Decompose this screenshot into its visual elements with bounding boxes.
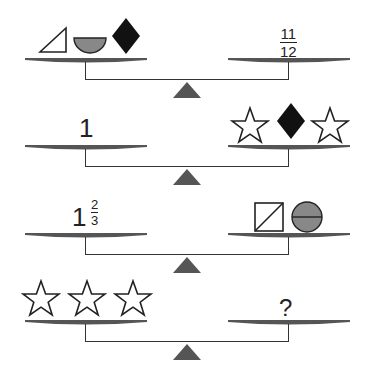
right-pan — [228, 319, 350, 325]
right-pan — [228, 232, 350, 238]
left-stem — [85, 62, 86, 79]
denominator: 12 — [280, 44, 297, 59]
beam — [85, 166, 289, 167]
left-stem — [85, 149, 86, 166]
unknown-question-mark: ? — [279, 296, 292, 320]
fraction-two-thirds: 2 3 — [91, 198, 98, 227]
left-pan — [25, 144, 147, 150]
left-stem — [85, 237, 86, 254]
right-stem — [288, 62, 289, 79]
beam — [85, 341, 289, 342]
left-stem — [85, 324, 86, 341]
beam — [85, 79, 289, 80]
numerator: 11 — [281, 26, 297, 41]
triangle-icon — [38, 26, 68, 58]
left-pan — [25, 319, 147, 325]
scale-4: ? — [0, 275, 370, 370]
star-icon — [67, 279, 107, 321]
fulcrum — [173, 169, 201, 185]
numerator: 2 — [91, 198, 98, 211]
black-diamond-icon — [111, 17, 141, 59]
star-icon — [310, 106, 350, 148]
square-diagonal-icon — [254, 202, 284, 236]
right-stem — [288, 237, 289, 254]
scale-1: 11 12 — [0, 0, 370, 95]
left-pan — [25, 57, 147, 63]
scale-3: 1 2 3 — [0, 190, 370, 285]
number-one: 1 — [79, 115, 93, 141]
fulcrum — [173, 344, 201, 360]
fulcrum — [173, 257, 201, 273]
denominator: 3 — [91, 214, 98, 227]
beam — [85, 254, 289, 255]
scale-2: 1 — [0, 94, 370, 189]
star-icon — [21, 279, 61, 321]
right-pan — [228, 144, 350, 150]
bowl-icon — [73, 37, 107, 59]
star-icon — [230, 106, 270, 148]
whole-number-one: 1 — [72, 204, 86, 230]
fraction-eleven-twelfths: 11 12 — [280, 26, 297, 59]
right-stem — [288, 324, 289, 341]
right-stem — [288, 149, 289, 166]
star-icon — [113, 279, 153, 321]
left-pan — [25, 232, 147, 238]
black-diamond-icon — [276, 102, 306, 144]
